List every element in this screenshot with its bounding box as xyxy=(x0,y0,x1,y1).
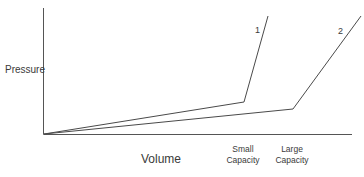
x-tick-large-line1: Large xyxy=(267,144,317,155)
series-1-line xyxy=(44,16,268,134)
series-2-line xyxy=(44,16,361,134)
series-1-label: 1 xyxy=(255,25,260,35)
series-2-label: 2 xyxy=(338,26,343,36)
x-tick-large-capacity: Large Capacity xyxy=(267,144,317,166)
y-axis-label: Pressure xyxy=(5,64,45,75)
x-tick-small-line2: Capacity xyxy=(218,155,268,166)
x-tick-small-line1: Small xyxy=(218,144,268,155)
x-tick-large-line2: Capacity xyxy=(267,155,317,166)
x-tick-small-capacity: Small Capacity xyxy=(218,144,268,166)
x-axis-label: Volume xyxy=(141,152,181,166)
